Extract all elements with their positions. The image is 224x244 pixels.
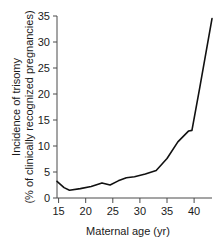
y-tick-label: 25 [38,62,50,74]
y-tick-marks [53,16,57,198]
y-tick-label: 35 [38,10,50,22]
y-axis-title-line2: (% of clinically recognized pregnancies) [23,10,35,203]
line-chart: 35 30 25 20 15 10 5 0 15 20 25 30 35 40 [0,0,224,244]
x-axis-title: Maternal age (yr) [86,225,170,237]
x-tick-label: 30 [134,205,146,217]
x-tick-label: 35 [161,205,173,217]
y-tick-label: 5 [44,166,50,178]
x-tick-label: 25 [107,205,119,217]
y-tick-label: 0 [44,192,50,204]
trisomy-incidence-line [57,19,212,191]
x-tick-marks [59,198,195,203]
trisomy-incidence-figure: 35 30 25 20 15 10 5 0 15 20 25 30 35 40 [0,0,224,244]
x-tick-label: 20 [80,205,92,217]
y-tick-label: 15 [38,114,50,126]
x-tick-labels: 15 20 25 30 35 40 [52,205,200,217]
y-axis-title-line1: Incidence of trisomy [10,58,22,156]
y-tick-label: 30 [38,36,50,48]
x-tick-label: 15 [52,205,64,217]
axis-frame [57,16,212,198]
y-tick-label: 10 [38,140,50,152]
x-tick-label: 40 [188,205,200,217]
y-tick-label: 20 [38,88,50,100]
y-tick-labels: 35 30 25 20 15 10 5 0 [38,10,50,204]
